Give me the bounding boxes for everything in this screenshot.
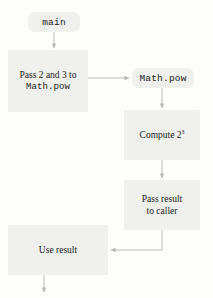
node-main-label: main	[42, 17, 66, 28]
node-pass-args-label-line2: Math.pow	[20, 81, 77, 93]
node-mathpow-label: Math.pow	[139, 73, 186, 84]
node-use-result-label: Use result	[39, 244, 77, 256]
node-pass-result[interactable]: Pass result to caller	[124, 180, 200, 230]
node-pass-result-label-line1: Pass result	[142, 193, 182, 205]
node-pass-result-label-line2: to caller	[142, 205, 182, 217]
node-compute-label-exponent: 3	[182, 129, 185, 135]
node-use-result[interactable]: Use result	[8, 225, 108, 275]
node-compute-label: Compute 23	[140, 129, 185, 141]
node-pass-args-label-line1: Pass 2 and 3 to	[20, 69, 77, 81]
node-compute[interactable]: Compute 23	[124, 110, 200, 160]
node-pass-args-label: Pass 2 and 3 to Math.pow	[20, 69, 77, 93]
flowchart-canvas: main Pass 2 and 3 to Math.pow Math.pow C…	[0, 0, 213, 298]
node-pass-result-label: Pass result to caller	[142, 193, 182, 217]
node-pass-args[interactable]: Pass 2 and 3 to Math.pow	[8, 50, 88, 112]
edge-pass-result-to-use-result	[111, 230, 162, 250]
node-compute-label-base: Compute 2	[140, 130, 182, 140]
node-main[interactable]: main	[28, 12, 80, 32]
node-mathpow[interactable]: Math.pow	[132, 68, 194, 88]
